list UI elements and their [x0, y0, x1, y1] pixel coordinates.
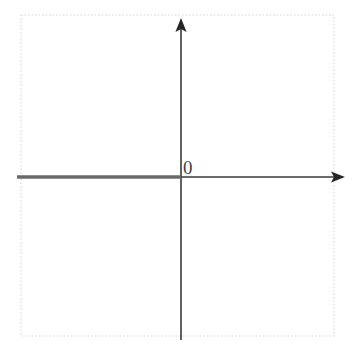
origin-label: 0	[183, 157, 193, 178]
figure-root: 0	[0, 0, 354, 354]
coordinate-axes-diagram: 0	[0, 0, 354, 354]
